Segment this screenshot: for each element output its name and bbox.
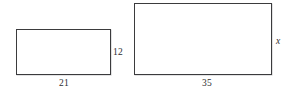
small-rectangle-height-label: 12 [113, 47, 123, 57]
geometry-figure: 12 21 x 35 [0, 0, 294, 98]
large-rectangle-height-label: x [276, 36, 280, 46]
large-rectangle-width-label: 35 [190, 78, 224, 88]
small-rectangle [16, 29, 111, 75]
large-rectangle [134, 3, 272, 75]
small-rectangle-width-label: 21 [47, 78, 81, 88]
